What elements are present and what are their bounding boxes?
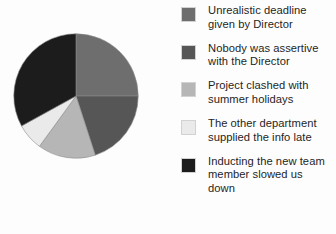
legend-item[interactable]: The other department supplied the info l…: [181, 117, 333, 144]
legend-item[interactable]: Project clashed with summer holidays: [181, 79, 333, 106]
legend-item[interactable]: Inducting the new team member slowed us …: [181, 155, 333, 196]
legend-swatch-icon: [181, 7, 196, 22]
pie-chart: [13, 33, 139, 159]
legend-item-label: Inducting the new team member slowed us …: [208, 155, 333, 196]
pie-slice-group: [14, 34, 138, 158]
pie-slice[interactable]: [76, 34, 138, 96]
pie-chart-figure: Unrealistic deadline given by DirectorNo…: [0, 0, 336, 234]
pie-chart-svg: [13, 33, 139, 159]
legend-swatch-icon: [181, 82, 196, 97]
legend-item[interactable]: Unrealistic deadline given by Director: [181, 4, 333, 31]
legend-item-label: Unrealistic deadline given by Director: [208, 4, 333, 31]
legend-item-label: The other department supplied the info l…: [208, 117, 333, 144]
legend-swatch-icon: [181, 158, 196, 173]
legend-item[interactable]: Nobody was assertive with the Director: [181, 42, 333, 69]
legend-swatch-icon: [181, 120, 196, 135]
chart-legend: Unrealistic deadline given by DirectorNo…: [181, 4, 333, 206]
legend-swatch-icon: [181, 45, 196, 60]
legend-item-label: Nobody was assertive with the Director: [208, 42, 333, 69]
legend-item-label: Project clashed with summer holidays: [208, 79, 333, 106]
